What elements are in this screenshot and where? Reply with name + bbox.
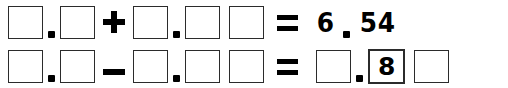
equals-icon [276, 49, 300, 83]
answer-box-r2-result-frac-2[interactable] [414, 50, 449, 83]
equals-icon [276, 5, 300, 39]
decimal-point-r1-result [343, 31, 350, 38]
decimal-point-r1-b [173, 31, 180, 38]
decimal-point-r2-b [173, 75, 180, 82]
answer-box-r2-b-frac-1[interactable] [185, 50, 220, 83]
decimal-point-r2-a [48, 75, 55, 82]
decimal-point-r1-a [48, 31, 55, 38]
answer-box-r2-result-frac-1[interactable]: 8 [368, 49, 405, 84]
answer-box-r2-b-frac-2[interactable] [229, 50, 264, 83]
answer-box-r2-a-whole[interactable] [8, 50, 43, 83]
answer-box-r1-b-whole[interactable] [133, 6, 168, 39]
result-digit-r1-frac-1: 5 [360, 9, 376, 36]
math-worksheet: 6 5 4 8 [0, 0, 508, 88]
result-digit-r1-whole: 6 [317, 9, 333, 36]
plus-icon [102, 5, 126, 39]
answer-box-r2-a-frac-1[interactable] [60, 50, 95, 83]
answer-box-r1-b-frac-2[interactable] [229, 6, 264, 39]
decimal-point-r2-result [356, 75, 363, 82]
answer-box-r1-a-frac-1[interactable] [60, 6, 95, 39]
equation-row-2: 8 [0, 44, 508, 88]
answer-box-r2-result-whole[interactable] [316, 50, 351, 83]
answer-box-r2-b-whole[interactable] [133, 50, 168, 83]
minus-icon [102, 49, 126, 83]
answer-box-r1-a-whole[interactable] [8, 6, 43, 39]
answer-box-r1-b-frac-1[interactable] [185, 6, 220, 39]
equation-row-1: 6 5 4 [0, 0, 508, 44]
result-digit-r1-frac-2: 4 [377, 9, 393, 36]
